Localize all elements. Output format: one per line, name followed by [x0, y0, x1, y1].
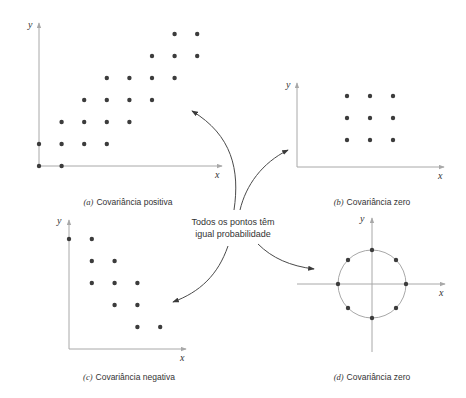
caption-d-tag: (d)	[334, 372, 344, 382]
data-point	[391, 138, 395, 142]
plot-b-x-label: x	[437, 170, 443, 181]
plot-b-points	[345, 94, 395, 142]
data-point	[404, 282, 408, 286]
data-point	[82, 98, 86, 102]
data-point	[127, 98, 131, 102]
data-point	[336, 282, 340, 286]
data-point	[391, 116, 395, 120]
caption-d: (d)Covariância zero	[334, 372, 411, 382]
data-point	[195, 32, 199, 36]
data-point	[394, 258, 398, 262]
data-point	[150, 76, 154, 80]
data-point	[345, 116, 349, 120]
data-point	[135, 281, 139, 285]
data-point	[112, 281, 116, 285]
plot-c-x-label: x	[179, 352, 185, 363]
plot-d-y-label: y	[359, 213, 365, 224]
data-point	[59, 142, 63, 146]
arrow-to-plot-d	[258, 244, 314, 269]
data-point	[158, 325, 162, 329]
caption-a-text: Covariância positiva	[96, 197, 172, 207]
plot-a-positive-covariance: y x	[27, 19, 222, 180]
data-point	[135, 303, 139, 307]
data-point	[370, 248, 374, 252]
caption-a-tag: (a)	[84, 197, 94, 207]
center-label-line2: igual probabilidade	[191, 228, 274, 240]
data-point	[346, 258, 350, 262]
data-point	[105, 98, 109, 102]
data-point	[391, 94, 395, 98]
data-point	[150, 98, 154, 102]
data-point	[90, 281, 94, 285]
data-point	[105, 76, 109, 80]
arrow-to-plot-b	[240, 150, 288, 210]
data-point	[82, 142, 86, 146]
caption-b: (b)Covariância zero	[334, 197, 411, 207]
data-point	[127, 76, 131, 80]
data-point	[172, 32, 176, 36]
data-point	[37, 164, 41, 168]
plot-d-zero-covariance-circle: y x	[297, 213, 445, 352]
plot-c-points	[67, 237, 163, 329]
data-point	[105, 120, 109, 124]
data-point	[368, 94, 372, 98]
data-point	[59, 120, 63, 124]
plot-d-x-label: x	[438, 287, 444, 298]
data-point	[370, 316, 374, 320]
caption-b-text: Covariância zero	[347, 197, 411, 207]
caption-c-tag: (c)	[83, 372, 92, 382]
plot-c-y-label: y	[56, 215, 62, 226]
arrow-to-plot-c	[173, 246, 228, 302]
caption-c: (c)Covariância negativa	[83, 372, 175, 382]
data-point	[368, 116, 372, 120]
caption-a: (a)Covariância positiva	[84, 197, 173, 207]
data-point	[150, 54, 154, 58]
data-point	[90, 237, 94, 241]
caption-b-tag: (b)	[334, 197, 344, 207]
data-point	[105, 142, 109, 146]
center-label-line1: Todos os pontos têm	[191, 216, 274, 228]
data-point	[82, 120, 86, 124]
center-label: Todos os pontos têm igual probabilidade	[191, 216, 274, 240]
caption-c-text: Covariância negativa	[96, 372, 175, 382]
data-point	[368, 138, 372, 142]
data-point	[127, 120, 131, 124]
data-point	[112, 259, 116, 263]
data-point	[135, 325, 139, 329]
data-point	[172, 76, 176, 80]
data-point	[112, 303, 116, 307]
data-point	[172, 54, 176, 58]
plot-a-points	[37, 32, 200, 168]
plot-c-negative-covariance: y x	[56, 215, 186, 363]
plot-b-y-label: y	[285, 79, 291, 90]
data-point	[345, 94, 349, 98]
plot-a-y-label: y	[27, 19, 33, 30]
plot-b-zero-covariance: y x	[285, 79, 444, 181]
data-point	[394, 306, 398, 310]
arrow-to-plot-a	[192, 111, 236, 210]
data-point	[345, 138, 349, 142]
data-point	[67, 237, 71, 241]
plot-a-x-label: x	[214, 169, 220, 180]
data-point	[90, 259, 94, 263]
caption-d-text: Covariância zero	[347, 372, 411, 382]
data-point	[346, 306, 350, 310]
data-point	[59, 164, 63, 168]
data-point	[37, 142, 41, 146]
data-point	[195, 54, 199, 58]
